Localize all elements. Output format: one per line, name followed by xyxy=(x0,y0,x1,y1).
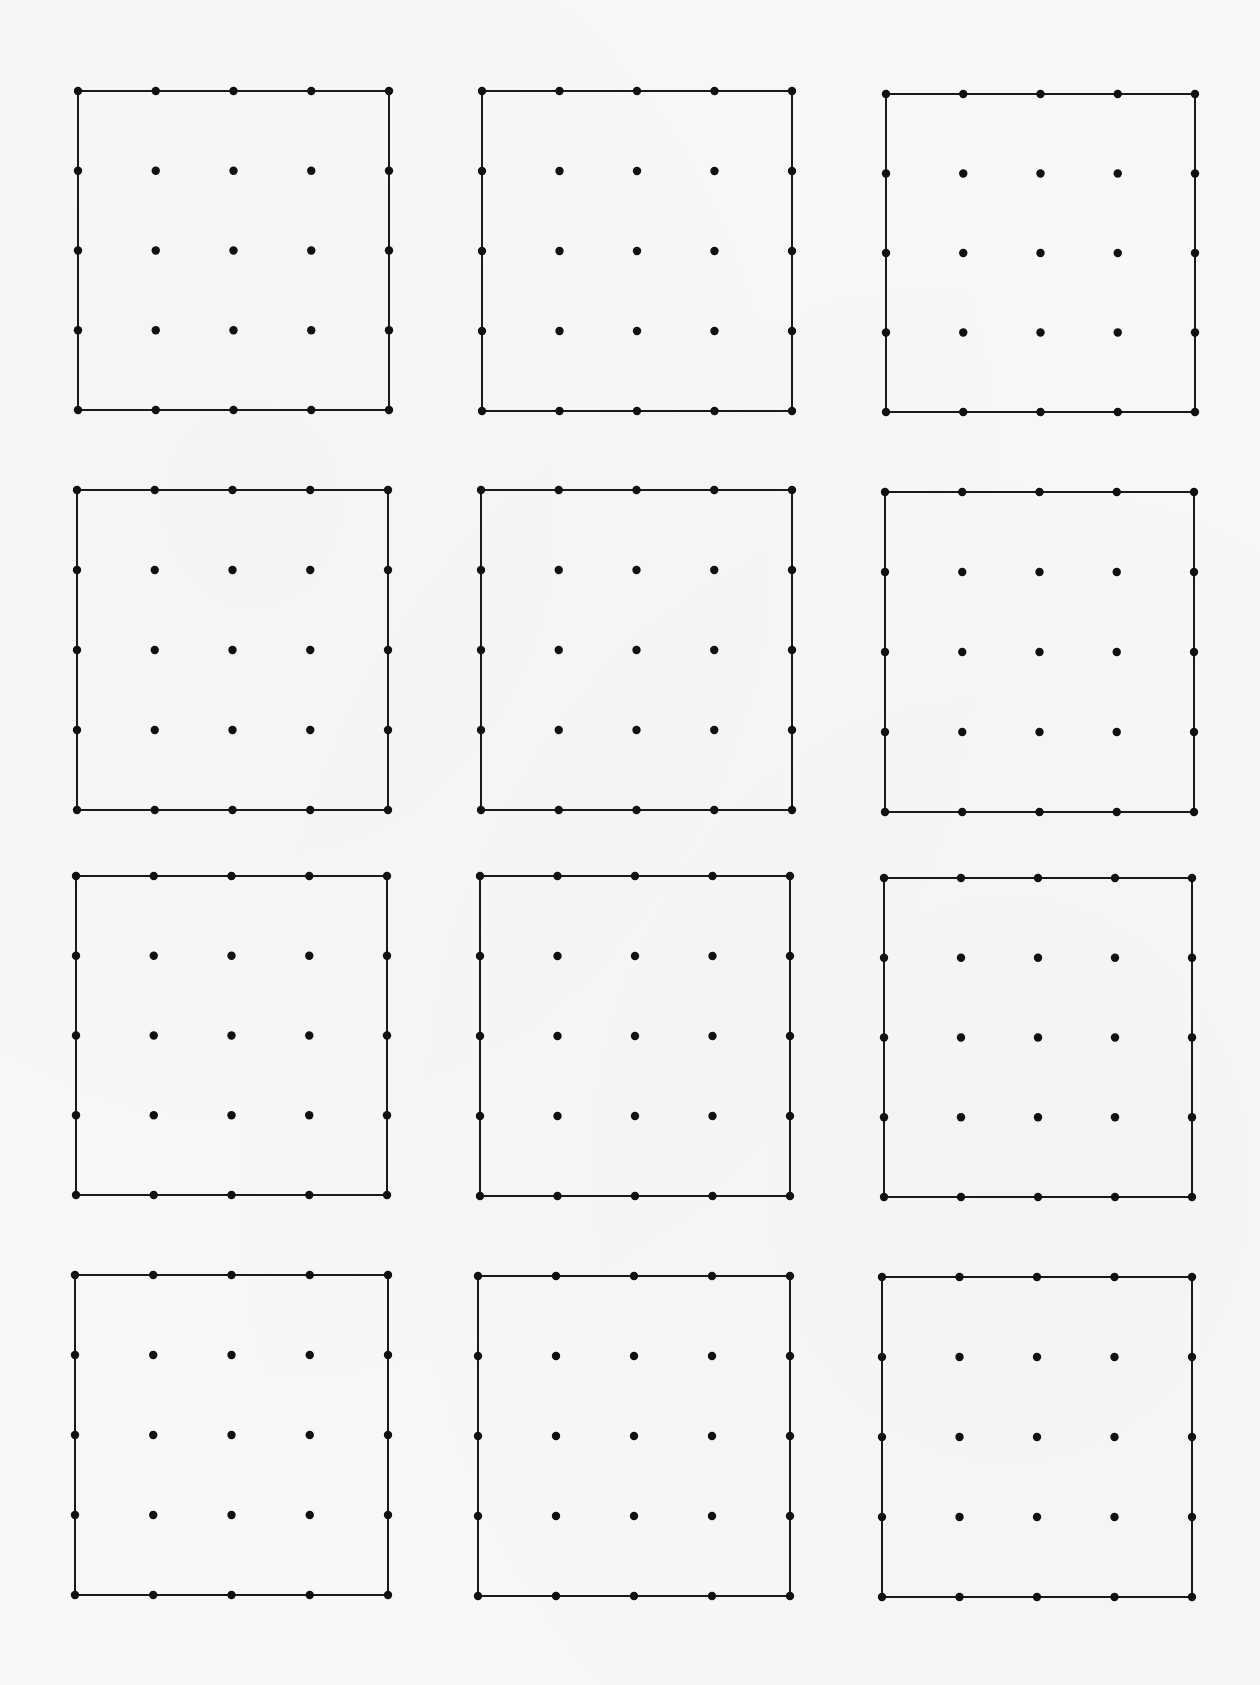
grid-dot xyxy=(1036,90,1044,98)
grid-dot xyxy=(228,726,236,734)
dot-grid xyxy=(77,490,388,810)
grid-dot xyxy=(1188,874,1196,882)
grid-dot xyxy=(1035,568,1043,576)
grid-dot xyxy=(1035,488,1043,496)
grid-dot xyxy=(71,1351,79,1359)
grid-dot xyxy=(957,1113,965,1121)
grid-dot xyxy=(882,249,890,257)
grid-dot xyxy=(307,87,315,95)
grid-dot xyxy=(631,1032,639,1040)
grid-dot xyxy=(955,1593,963,1601)
grid-dot xyxy=(882,169,890,177)
grid-dot xyxy=(1033,1593,1041,1601)
grid-dot xyxy=(708,1112,716,1120)
grid-dot xyxy=(384,646,392,654)
grid-dot xyxy=(227,1191,235,1199)
grid-dot xyxy=(958,488,966,496)
grid-dot xyxy=(150,1111,158,1119)
grid-dot xyxy=(882,328,890,336)
grid-dot xyxy=(227,872,235,880)
grid-dot xyxy=(228,646,236,654)
grid-dot xyxy=(710,167,718,175)
grid-dot xyxy=(1033,1513,1041,1521)
grid-dot xyxy=(385,326,393,334)
grid-dot xyxy=(788,486,796,494)
grid-dot xyxy=(151,486,159,494)
grid-dot xyxy=(881,808,889,816)
grid-dot xyxy=(880,1113,888,1121)
grid-dot xyxy=(632,566,640,574)
dot-grid-graphic xyxy=(878,86,1203,420)
grid-dot xyxy=(476,1192,484,1200)
grid-dot xyxy=(227,1591,235,1599)
grid-dot xyxy=(630,1352,638,1360)
grid-dot xyxy=(1110,1593,1118,1601)
grid-dot xyxy=(552,1272,560,1280)
grid-dot xyxy=(73,646,81,654)
grid-dot xyxy=(786,1272,794,1280)
grid-dot xyxy=(383,1031,391,1039)
grid-dot xyxy=(385,406,393,414)
grid-dot xyxy=(631,1112,639,1120)
grid-dot xyxy=(474,1432,482,1440)
grid-dot xyxy=(710,726,718,734)
dot-grid-graphic xyxy=(473,482,800,818)
grid-dot xyxy=(478,407,486,415)
grid-dot xyxy=(1033,1353,1041,1361)
grid-dot xyxy=(786,1192,794,1200)
grid-dot xyxy=(305,1111,313,1119)
grid-dot xyxy=(384,806,392,814)
grid-dot xyxy=(1110,1273,1118,1281)
grid-dot xyxy=(150,1191,158,1199)
grid-dot xyxy=(152,406,160,414)
grid-dot xyxy=(708,1352,716,1360)
grid-dot xyxy=(149,1591,157,1599)
grid-dot xyxy=(1190,648,1198,656)
grid-dot xyxy=(957,874,965,882)
grid-dot xyxy=(880,1033,888,1041)
grid-dot xyxy=(878,1433,886,1441)
grid-dot xyxy=(710,646,718,654)
grid-dot xyxy=(152,87,160,95)
grid-dot xyxy=(305,952,313,960)
grid-dot xyxy=(72,872,80,880)
grid-dot xyxy=(477,726,485,734)
grid-dot xyxy=(788,87,796,95)
grid-dot xyxy=(1114,90,1122,98)
grid-dot xyxy=(1111,1113,1119,1121)
grid-dot xyxy=(384,1511,392,1519)
grid-dot xyxy=(149,1511,157,1519)
grid-dot xyxy=(477,566,485,574)
grid-dot xyxy=(632,646,640,654)
grid-dot xyxy=(227,1271,235,1279)
grid-dot xyxy=(553,1192,561,1200)
grid-dot xyxy=(306,646,314,654)
grid-dot xyxy=(1191,408,1199,416)
grid-dot xyxy=(1190,568,1198,576)
grid-dot xyxy=(1188,1433,1196,1441)
grid-dot xyxy=(957,954,965,962)
grid-dot xyxy=(229,326,237,334)
dot-grid xyxy=(480,876,790,1196)
worksheet-page xyxy=(0,0,1260,1685)
grid-dot xyxy=(74,326,82,334)
grid-dot xyxy=(708,1592,716,1600)
grid-dot xyxy=(383,1191,391,1199)
grid-dot xyxy=(474,1592,482,1600)
dot-grid xyxy=(885,492,1194,812)
grid-dot xyxy=(881,728,889,736)
grid-dot xyxy=(149,1271,157,1279)
grid-dot xyxy=(632,806,640,814)
grid-dot xyxy=(1188,954,1196,962)
grid-dot xyxy=(306,726,314,734)
grid-dot xyxy=(633,87,641,95)
grid-dot xyxy=(307,326,315,334)
grid-dot xyxy=(959,328,967,336)
grid-dot xyxy=(710,247,718,255)
grid-dot xyxy=(552,1352,560,1360)
grid-dot xyxy=(71,1271,79,1279)
grid-dot xyxy=(708,1032,716,1040)
grid-dot xyxy=(788,327,796,335)
grid-dot xyxy=(633,167,641,175)
grid-dot xyxy=(1036,249,1044,257)
